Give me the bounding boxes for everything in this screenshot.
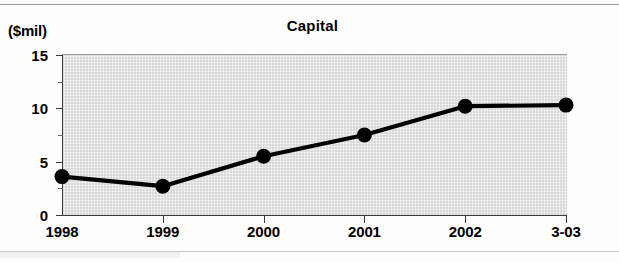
data-point-marker: [256, 149, 271, 164]
scan-smudge: [0, 252, 180, 258]
series-layer: [0, 0, 619, 262]
data-point-marker: [559, 98, 574, 113]
data-point-marker: [357, 128, 372, 143]
data-point-marker: [458, 99, 473, 114]
chart-figure: ($mil) Capital 051015 199819992000200120…: [0, 0, 619, 262]
series-line: [62, 105, 566, 186]
data-point-marker: [55, 169, 70, 184]
data-point-marker: [155, 179, 170, 194]
